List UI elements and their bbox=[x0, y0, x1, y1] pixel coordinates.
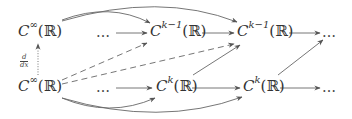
node-base: C bbox=[18, 22, 29, 40]
node-arg: (ℝ) bbox=[38, 22, 62, 40]
node-base: C bbox=[156, 77, 167, 95]
curve-bottom-left-to-mid bbox=[62, 98, 155, 108]
node-top-mid: Ck−1(ℝ) bbox=[150, 24, 206, 39]
node-bottom-mid: Ck(ℝ) bbox=[156, 79, 198, 94]
arrows-layer bbox=[0, 0, 352, 119]
curve-top-left-to-right bbox=[62, 7, 237, 22]
node-bottom-left: C∞(ℝ) bbox=[18, 79, 62, 94]
node-arg: (ℝ) bbox=[38, 77, 62, 95]
node-sup: ∞ bbox=[29, 19, 37, 30]
dashed-bottom-left-to-top-right bbox=[62, 44, 234, 84]
ddx-denominator: dx bbox=[20, 62, 28, 69]
node-base: C bbox=[243, 77, 254, 95]
node-top-left: C∞(ℝ) bbox=[18, 24, 62, 39]
diag-bottom-right-to-top-dots bbox=[278, 40, 323, 75]
dots-bottom-1: … bbox=[96, 80, 111, 94]
node-sup: k−1 bbox=[161, 19, 182, 30]
commutative-diagram: C∞(ℝ) … Ck−1(ℝ) Ck−1(ℝ) … d dx C∞(ℝ) … C… bbox=[0, 0, 352, 119]
node-bottom-right: Ck(ℝ) bbox=[243, 79, 285, 94]
ddx-label: d dx bbox=[20, 54, 28, 69]
node-arg: (ℝ) bbox=[269, 22, 293, 40]
diag-bottom-mid-to-top-right bbox=[193, 45, 240, 75]
dots-top-1: … bbox=[96, 25, 111, 39]
node-arg: (ℝ) bbox=[174, 77, 198, 95]
node-base: C bbox=[150, 22, 161, 40]
dots-top-2: … bbox=[322, 25, 337, 39]
node-sup: k bbox=[254, 74, 260, 85]
node-arg: (ℝ) bbox=[182, 22, 206, 40]
node-base: C bbox=[18, 77, 29, 95]
node-sup: ∞ bbox=[29, 74, 37, 85]
dots-bottom-2: … bbox=[322, 80, 337, 94]
node-sup: k−1 bbox=[248, 19, 269, 30]
node-arg: (ℝ) bbox=[261, 77, 285, 95]
node-sup: k bbox=[167, 74, 173, 85]
node-base: C bbox=[237, 22, 248, 40]
node-top-right: Ck−1(ℝ) bbox=[237, 24, 293, 39]
